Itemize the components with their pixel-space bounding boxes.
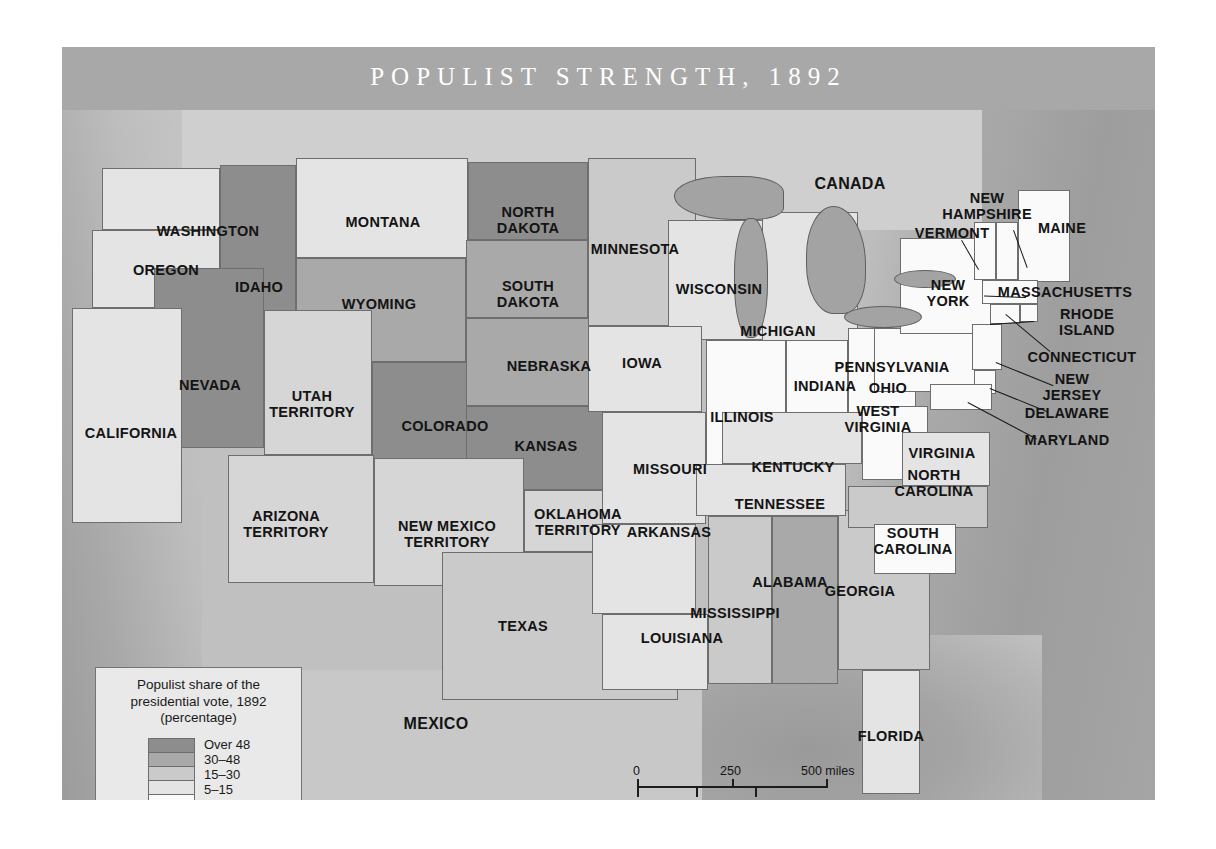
page-title: POPULIST STRENGTH, 1892 <box>62 63 1155 91</box>
label-kentucky: KENTUCKY <box>752 460 835 476</box>
map-title-band: POPULIST STRENGTH, 1892 <box>62 47 1155 110</box>
legend-label-0-5: 0–5 <box>204 797 263 800</box>
label-new-mexico-territory: NEW MEXICO TERRITORY <box>398 519 496 550</box>
map-figure: POPULIST STRENGTH, 1892 <box>62 47 1155 800</box>
label-pennsylvania: PENNSYLVANIA <box>834 360 949 376</box>
label-texas: TEXAS <box>498 619 548 635</box>
legend-swatch-15-30 <box>148 766 195 781</box>
state-rhode-island[interactable] <box>1020 304 1038 322</box>
label-virginia: VIRGINIA <box>909 446 976 462</box>
legend-label-5-15: 5–15 <box>204 782 263 797</box>
state-alabama[interactable] <box>772 516 838 684</box>
label-arkansas: ARKANSAS <box>627 525 712 541</box>
label-michigan: MICHIGAN <box>740 324 816 340</box>
label-california: CALIFORNIA <box>85 426 177 442</box>
state-california[interactable] <box>72 308 182 523</box>
label-maine: MAINE <box>1038 221 1086 237</box>
page-canvas: POPULIST STRENGTH, 1892 <box>0 0 1216 849</box>
label-colorado: COLORADO <box>402 419 489 435</box>
label-north-dakota: NORTH DAKOTA <box>497 205 560 236</box>
scale-tick-km-0 <box>637 788 639 797</box>
state-mississippi[interactable] <box>708 516 772 684</box>
map-body: WASHINGTON OREGON IDAHO MONTANA NORTH DA… <box>62 110 1155 800</box>
label-minnesota: MINNESOTA <box>591 242 680 258</box>
scale-label-km-250: 250 <box>683 798 704 800</box>
scale-tick-mi-500 <box>826 779 828 788</box>
legend-label-30-48: 30–48 <box>204 752 263 767</box>
label-washington: WASHINGTON <box>157 224 260 240</box>
label-west-virginia: WEST VIRGINIA <box>845 404 912 435</box>
legend-label-column: Over 48 30–48 15–30 5–15 0–5 Not voting <box>204 737 263 800</box>
label-idaho: IDAHO <box>235 280 283 296</box>
label-oregon: OREGON <box>133 263 199 279</box>
label-florida: FLORIDA <box>858 729 925 745</box>
label-mississippi: MISSISSIPPI <box>690 606 780 622</box>
scale-bar: 0 250 500 miles 0 250 500 kilometers <box>627 760 887 800</box>
label-missouri: MISSOURI <box>633 462 707 478</box>
state-washington[interactable] <box>102 168 220 230</box>
state-louisiana[interactable] <box>602 614 708 690</box>
label-tennessee: TENNESSEE <box>735 497 826 513</box>
state-new-hampshire[interactable] <box>996 222 1018 280</box>
scale-label-mi-250: 250 <box>720 764 741 778</box>
lake-michigan <box>734 218 768 338</box>
legend-swatch-5-15 <box>148 780 195 795</box>
state-montana[interactable] <box>296 158 468 258</box>
label-wyoming: WYOMING <box>342 297 417 313</box>
label-south-carolina: SOUTH CAROLINA <box>874 526 953 557</box>
label-north-carolina: NORTH CAROLINA <box>895 468 974 499</box>
legend-label-15-30: 15–30 <box>204 767 263 782</box>
map-legend: Populist share of the presidential vote,… <box>95 667 302 800</box>
label-rhode-island: RHODE ISLAND <box>1059 307 1115 338</box>
legend-swatch-over-48 <box>148 738 195 753</box>
label-nebraska: NEBRASKA <box>507 359 592 375</box>
label-vermont: VERMONT <box>915 226 990 242</box>
legend-swatch-30-48 <box>148 752 195 767</box>
label-utah-territory: UTAH TERRITORY <box>269 389 355 420</box>
scale-tick-mi-250 <box>732 779 734 788</box>
scale-label-mi-0: 0 <box>633 764 640 778</box>
label-ohio: OHIO <box>869 381 907 397</box>
legend-title: Populist share of the presidential vote,… <box>96 677 301 727</box>
label-kansas: KANSAS <box>514 439 577 455</box>
scale-label-km-0: 0 <box>633 798 640 800</box>
scale-tick-mi-0 <box>637 779 639 788</box>
legend-label-over-48: Over 48 <box>204 737 263 752</box>
lake-erie <box>844 306 922 328</box>
label-nevada: NEVADA <box>179 378 241 394</box>
legend-swatch-0-5 <box>148 794 195 800</box>
scale-tick-km-500 <box>755 788 757 797</box>
label-mexico: MEXICO <box>404 715 469 732</box>
label-indiana: INDIANA <box>794 379 857 395</box>
label-montana: MONTANA <box>345 215 420 231</box>
label-new-hampshire: NEW HAMPSHIRE <box>942 191 1032 222</box>
label-new-jersey: NEW JERSEY <box>1031 372 1114 403</box>
territory-utah[interactable] <box>264 310 372 455</box>
label-south-dakota: SOUTH DAKOTA <box>497 279 560 310</box>
label-wisconsin: WISCONSIN <box>676 282 762 298</box>
label-oklahoma-territory: OKLAHOMA TERRITORY <box>534 507 622 538</box>
label-arizona-territory: ARIZONA TERRITORY <box>243 509 329 540</box>
label-canada: CANADA <box>814 175 885 192</box>
label-new-york: NEW YORK <box>926 278 969 309</box>
label-louisiana: LOUISIANA <box>641 631 723 647</box>
label-georgia: GEORGIA <box>825 584 896 600</box>
label-iowa: IOWA <box>622 356 662 372</box>
label-illinois: ILLINOIS <box>710 410 774 426</box>
label-connecticut: CONNECTICUT <box>1028 350 1137 366</box>
state-maryland[interactable] <box>930 384 992 410</box>
scale-label-km-500: 500 kilometers <box>735 798 816 800</box>
label-massachusetts: MASSACHUSETTS <box>998 285 1132 301</box>
label-alabama: ALABAMA <box>752 575 827 591</box>
scale-label-mi-500: 500 miles <box>801 764 855 778</box>
label-maryland: MARYLAND <box>1025 433 1110 449</box>
scale-tick-km-250 <box>696 788 698 797</box>
legend-swatch-column <box>148 738 195 800</box>
